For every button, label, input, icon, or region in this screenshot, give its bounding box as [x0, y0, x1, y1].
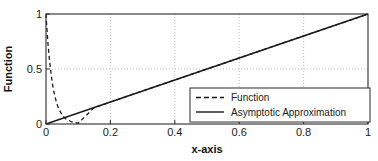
- legend-label-function: Function: [231, 92, 269, 103]
- ytick-label-2: 1: [36, 8, 42, 20]
- function-vs-asymptotic-approximation-chart: 0 0.2 0.4 0.6 0.8 1 0 0.5 1 x-axis Funct…: [0, 0, 378, 161]
- chart-figure: 0 0.2 0.4 0.6 0.8 1 0 0.5 1 x-axis Funct…: [0, 0, 378, 161]
- xtick-label-5: 1: [365, 126, 371, 138]
- xtick-label-4: 0.8: [296, 126, 311, 138]
- xtick-label-1: 0.2: [103, 126, 118, 138]
- x-axis-label: x-axis: [191, 143, 222, 155]
- ytick-label-1: 0.5: [27, 63, 42, 75]
- legend-label-asymptotic-approximation: Asymptotic Approximation: [231, 107, 346, 118]
- xtick-label-0: 0: [43, 126, 49, 138]
- chart-background: [0, 0, 378, 161]
- y-axis-label: Function: [2, 46, 14, 93]
- ytick-label-0: 0: [36, 118, 42, 130]
- xtick-label-2: 0.4: [167, 126, 182, 138]
- chart-legend[interactable]: Function Asymptotic Approximation: [190, 88, 370, 122]
- xtick-label-3: 0.6: [232, 126, 247, 138]
